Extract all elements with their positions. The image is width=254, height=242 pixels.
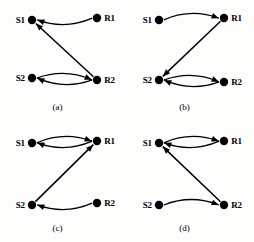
panel-a-graph: S1R1S2R2(a) bbox=[0, 0, 127, 121]
panel-caption-d: (d) bbox=[179, 223, 190, 233]
edge-s2-to-r2-arrowhead bbox=[211, 76, 219, 82]
panel-a: S1R1S2R2(a) bbox=[0, 0, 127, 121]
node-label-a-r1: R1 bbox=[104, 13, 115, 23]
panel-caption-c: (c) bbox=[53, 223, 63, 233]
node-label-c-r1: R1 bbox=[104, 136, 115, 146]
node-label-c-s2: S2 bbox=[16, 200, 26, 210]
edge-r1-to-s1-arrowhead bbox=[37, 20, 45, 25]
edge-r1-to-s2 bbox=[163, 21, 221, 76]
node-b-s2[interactable] bbox=[155, 76, 163, 84]
edge-r1-to-s1 bbox=[164, 141, 219, 147]
panel-c-edges bbox=[35, 136, 93, 210]
edge-s2-to-r2 bbox=[37, 73, 92, 79]
node-d-r1[interactable] bbox=[220, 137, 228, 145]
panel-b-graph: S1R1S2R2(b) bbox=[127, 0, 254, 121]
edge-r2-to-s2-arrowhead bbox=[37, 78, 45, 84]
node-c-r2[interactable] bbox=[93, 199, 101, 207]
edge-s2-to-r2 bbox=[164, 200, 219, 206]
edge-r2-to-s2-arrowhead bbox=[37, 205, 45, 210]
node-c-s1[interactable] bbox=[28, 139, 36, 147]
node-label-b-r1: R1 bbox=[231, 13, 242, 23]
node-d-r2[interactable] bbox=[220, 201, 228, 209]
node-a-r2[interactable] bbox=[93, 76, 101, 84]
edge-s2-to-r2-arrowhead bbox=[211, 200, 219, 205]
node-label-b-s1: S1 bbox=[143, 15, 153, 25]
panel-b: S1R1S2R2(b) bbox=[127, 0, 254, 121]
edge-s1-to-r1 bbox=[164, 13, 219, 19]
node-label-b-r2: R2 bbox=[231, 77, 242, 87]
node-label-a-s2: S2 bbox=[16, 73, 26, 83]
edge-s2-to-r1 bbox=[35, 145, 93, 202]
panel-d-graph: S1R1S2R2(d) bbox=[127, 121, 254, 242]
node-label-a-r2: R2 bbox=[104, 75, 115, 85]
node-a-s2[interactable] bbox=[28, 74, 36, 82]
edge-s2-to-r2-arrowhead bbox=[84, 74, 92, 80]
node-d-s2[interactable] bbox=[155, 201, 163, 209]
edge-r1-to-s1 bbox=[37, 141, 92, 147]
node-b-r1[interactable] bbox=[220, 14, 228, 22]
node-b-s1[interactable] bbox=[155, 16, 163, 24]
node-c-r1[interactable] bbox=[93, 137, 101, 145]
node-label-b-s2: S2 bbox=[143, 75, 153, 85]
edge-s1-to-r1-arrowhead bbox=[84, 136, 92, 141]
edge-s1-to-r1-arrowhead bbox=[211, 13, 219, 18]
panel-c: S1R1S2R2(c) bbox=[0, 121, 127, 242]
node-d-s1[interactable] bbox=[155, 139, 163, 147]
node-label-a-s1: S1 bbox=[16, 15, 26, 25]
edge-s1-to-r1-arrowhead bbox=[211, 136, 219, 141]
edge-r1-to-s1-arrowhead bbox=[37, 143, 45, 148]
node-b-r2[interactable] bbox=[220, 78, 228, 86]
edge-s2-to-r2 bbox=[164, 75, 219, 81]
edge-r2-to-s1 bbox=[163, 147, 221, 202]
panel-caption-a: (a) bbox=[53, 102, 63, 112]
panel-c-graph: S1R1S2R2(c) bbox=[0, 121, 127, 242]
node-label-d-s1: S1 bbox=[143, 138, 153, 148]
node-a-r1[interactable] bbox=[93, 14, 101, 22]
edge-r1-to-s1-arrowhead bbox=[164, 143, 172, 148]
node-label-c-s1: S1 bbox=[16, 138, 26, 148]
panel-d: S1R1S2R2(d) bbox=[127, 121, 254, 242]
node-label-d-s2: S2 bbox=[143, 200, 153, 210]
figure-canvas: S1R1S2R2(a)S1R1S2R2(b)S1R1S2R2(c)S1R1S2R… bbox=[0, 0, 254, 242]
node-label-d-r1: R1 bbox=[231, 136, 242, 146]
edge-r2-to-s2 bbox=[164, 80, 219, 86]
edge-s1-to-r1 bbox=[37, 136, 92, 142]
edge-r1-to-s1 bbox=[37, 18, 92, 24]
edge-r2-to-s2 bbox=[37, 78, 92, 84]
edge-s1-to-r1 bbox=[164, 136, 219, 142]
node-c-s2[interactable] bbox=[28, 201, 36, 209]
edge-r2-to-s2-arrowhead bbox=[164, 80, 172, 86]
edge-r2-to-s1 bbox=[36, 24, 94, 77]
node-label-d-r2: R2 bbox=[231, 200, 242, 210]
panel-a-edges bbox=[36, 18, 94, 84]
panel-d-edges bbox=[163, 136, 221, 205]
panel-caption-b: (b) bbox=[179, 102, 190, 112]
node-label-c-r2: R2 bbox=[104, 198, 115, 208]
edge-r2-to-s2 bbox=[37, 203, 92, 209]
node-a-s1[interactable] bbox=[28, 16, 36, 24]
panel-b-edges bbox=[163, 13, 221, 87]
